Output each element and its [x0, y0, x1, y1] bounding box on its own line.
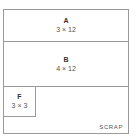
cut-sheet: A 3 × 12 B 4 × 12 F 3 × 3 SCRAP [3, 9, 129, 134]
piece-f-label: F [17, 93, 21, 101]
piece-a: A 3 × 12 [4, 10, 128, 42]
scrap-label: SCRAP [99, 124, 123, 130]
piece-a-dims: 3 × 12 [56, 25, 76, 34]
piece-f-dims: 3 × 3 [12, 101, 28, 110]
piece-a-label: A [63, 17, 68, 25]
piece-b: B 4 × 12 [4, 42, 128, 87]
piece-f: F 3 × 3 [4, 87, 36, 117]
piece-b-dims: 4 × 12 [56, 64, 76, 73]
piece-b-label: B [63, 56, 68, 64]
